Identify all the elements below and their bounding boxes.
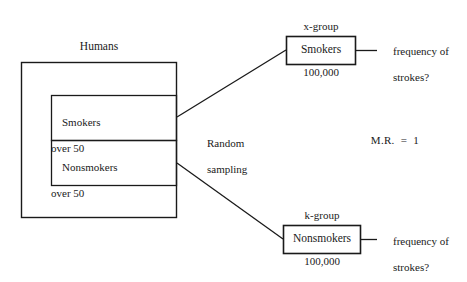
nonsmokers-over-50-label: Nonsmokers over 50: [51, 148, 177, 226]
k-group-count: 100,000: [283, 255, 361, 268]
x-group-outcome-label: frequency of strokes?: [382, 32, 467, 97]
measure-of-risk-label: M.R. = 1: [352, 134, 438, 147]
diagram-canvas: Humans Smokers over 50 Nonsmokers over 5…: [0, 0, 467, 282]
x-group-outcome-line1: frequency of: [393, 45, 449, 57]
random-sampling-line1: Random: [207, 137, 244, 149]
nonsmokers-over-50-line2: over 50: [51, 187, 177, 200]
k-group-box-label: Nonsmokers: [283, 232, 361, 246]
random-sampling-line2: sampling: [207, 163, 247, 175]
sampling-line-x-group: [177, 50, 286, 117]
k-group-outcome-line2: strokes?: [393, 261, 429, 273]
k-group-outcome-label: frequency of strokes?: [382, 222, 467, 282]
nonsmokers-over-50-line1: Nonsmokers: [62, 161, 118, 173]
x-group-label: x-group: [286, 20, 356, 33]
x-group-box-label: Smokers: [286, 43, 356, 57]
x-group-count: 100,000: [286, 66, 356, 79]
k-group-label: k-group: [283, 209, 361, 222]
random-sampling-label: Random sampling: [196, 124, 272, 189]
humans-label: Humans: [21, 40, 177, 54]
smokers-over-50-line1: Smokers: [62, 116, 101, 128]
x-group-outcome-line2: strokes?: [393, 71, 429, 83]
k-group-outcome-line1: frequency of: [393, 235, 449, 247]
